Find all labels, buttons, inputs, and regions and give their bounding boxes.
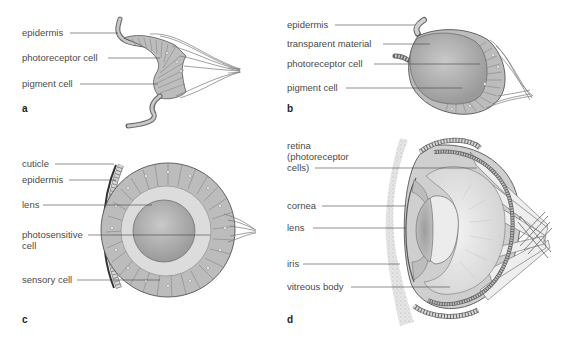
panel-a-drawing [118, 19, 241, 126]
panel-letter-b: b [287, 103, 293, 114]
panel-c-drawing [101, 163, 256, 297]
label-d-iris: iris [287, 258, 299, 269]
panel-letter-d: d [287, 314, 293, 325]
panel-letter-a: a [22, 103, 28, 114]
label-c-epidermis: epidermis [22, 174, 63, 185]
label-a-photoreceptor-cell: photoreceptor cell [22, 52, 98, 63]
label-a-epidermis: epidermis [22, 27, 63, 38]
label-d-retina: retina (photoreceptor cells) [287, 140, 359, 173]
eye-evolution-diagram [0, 0, 561, 340]
panel-letter-c: c [22, 314, 28, 325]
label-b-epidermis: epidermis [287, 19, 328, 30]
panel-b-drawing [395, 20, 533, 114]
label-b-pigment-cell: pigment cell [287, 82, 338, 93]
label-c-cuticle: cuticle [22, 158, 49, 169]
label-d-lens: lens [287, 222, 304, 233]
label-b-transparent-material: transparent material [287, 38, 371, 49]
panel-d-drawing [386, 138, 552, 326]
label-b-photoreceptor-cell: photoreceptor cell [287, 58, 363, 69]
label-c-lens: lens [22, 199, 39, 210]
label-d-cornea: cornea [287, 200, 316, 211]
label-a-pigment-cell: pigment cell [22, 78, 73, 89]
label-c-sensory-cell: sensory cell [22, 274, 72, 285]
label-d-vitreous-body: vitreous body [287, 281, 344, 292]
label-c-photosensitive-cell: photosensitive cell [22, 229, 92, 251]
